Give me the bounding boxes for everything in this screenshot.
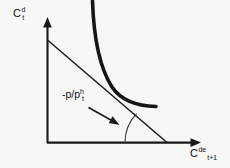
x-axis-label-subscript: t+1	[207, 154, 217, 161]
indifference-curve	[93, 1, 157, 107]
slope-annotation: -p/pht	[62, 89, 84, 100]
x-axis	[47, 138, 201, 147]
x-axis-label-base: C	[190, 147, 198, 159]
economics-indifference-curve-figure: Cdt Cdet+1 -p/pht	[0, 0, 230, 168]
x-axis-label-superscript: de	[198, 146, 206, 153]
slope-annotation-subscript: t	[82, 95, 84, 102]
y-axis-label-base: C	[13, 7, 21, 19]
pointer-arrow-shaft	[89, 108, 114, 122]
angle-arc	[125, 114, 137, 143]
pointer-arrow-head	[109, 116, 120, 125]
pointer-arrow	[89, 108, 120, 126]
x-axis-label: Cdet+1	[190, 148, 217, 159]
y-axis	[43, 17, 52, 143]
slope-annotation-superscript: h	[80, 88, 84, 95]
figure-canvas	[0, 0, 230, 168]
y-axis-label-superscript: d	[21, 6, 25, 13]
slope-annotation-base: -p/p	[62, 88, 80, 100]
y-axis-label: Cdt	[13, 8, 24, 19]
y-axis-arrowhead	[43, 17, 52, 28]
